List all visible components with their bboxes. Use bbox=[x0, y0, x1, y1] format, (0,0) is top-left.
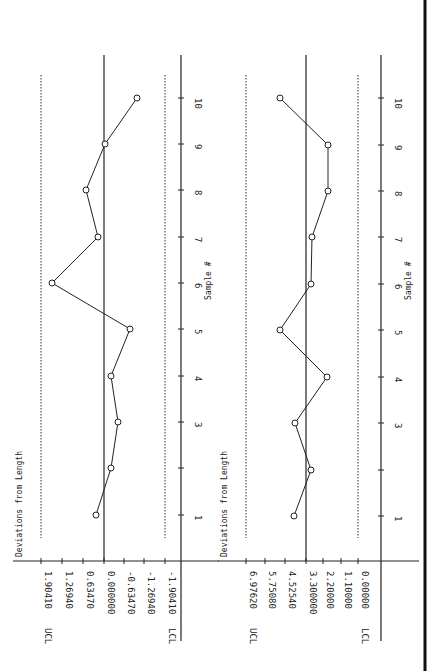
value-tick-label: 1.90410 bbox=[43, 571, 53, 609]
sample-tick-label: 7 bbox=[193, 237, 203, 242]
data-point-marker bbox=[49, 280, 55, 286]
value-tick-label: 5.75080 bbox=[267, 571, 277, 609]
data-series-line bbox=[52, 98, 137, 515]
data-point-marker bbox=[277, 95, 283, 101]
data-point-marker bbox=[325, 142, 331, 148]
lcl-label: LCL bbox=[360, 628, 370, 644]
sample-tick-label: 8 bbox=[193, 190, 203, 195]
data-point-marker bbox=[309, 234, 315, 240]
chart-title: Deviations from Length bbox=[15, 451, 24, 557]
value-tick-label: 6.97620 bbox=[248, 571, 258, 609]
value-tick-label: -1.90410 bbox=[167, 571, 177, 614]
sample-tick-label: 9 bbox=[193, 144, 203, 149]
sample-axis-label: Sample # bbox=[204, 261, 213, 300]
value-tick-label: 0.000000 bbox=[106, 571, 116, 614]
lcl-label: LCL bbox=[167, 628, 177, 644]
data-point-marker bbox=[292, 420, 298, 426]
chart-title: Deviations from Length bbox=[220, 451, 229, 557]
sample-tick-label: 8 bbox=[393, 191, 403, 196]
value-tick-label: 3.300000 bbox=[308, 571, 318, 614]
sample-axis-label: Sample # bbox=[404, 261, 413, 300]
value-tick-label: -1.26940 bbox=[146, 571, 156, 614]
ucl-label: UCL bbox=[248, 628, 258, 644]
data-point-marker bbox=[325, 188, 331, 194]
data-point-marker bbox=[95, 234, 101, 240]
data-point-marker bbox=[308, 467, 314, 473]
data-point-marker bbox=[102, 141, 108, 147]
sample-tick-label: 9 bbox=[393, 145, 403, 150]
sample-tick-label: 3 bbox=[193, 422, 203, 427]
sample-tick-label: 4 bbox=[193, 376, 203, 381]
sample-tick-label: 5 bbox=[393, 330, 403, 335]
sample-tick-label: 10 bbox=[193, 98, 203, 109]
value-tick-label: -0.63470 bbox=[126, 571, 136, 614]
sample-tick-label: 1 bbox=[393, 516, 403, 521]
data-point-marker bbox=[134, 95, 140, 101]
data-series-line bbox=[280, 98, 328, 516]
sample-tick-label: 6 bbox=[193, 283, 203, 288]
data-point-marker bbox=[83, 187, 89, 193]
data-point-marker bbox=[108, 465, 114, 471]
value-tick-label: 4.52540 bbox=[287, 571, 297, 609]
sample-tick-label: 4 bbox=[393, 377, 403, 382]
data-point-marker bbox=[115, 419, 121, 425]
data-point-marker bbox=[324, 374, 330, 380]
sample-tick-label: 3 bbox=[393, 423, 403, 428]
value-tick-label: 1.10000 bbox=[343, 571, 353, 609]
sample-tick-label: 5 bbox=[193, 329, 203, 334]
ucl-label: UCL bbox=[43, 628, 53, 644]
value-tick-label: 0.63470 bbox=[85, 571, 95, 609]
sample-tick-label: 10 bbox=[393, 98, 403, 109]
data-point-marker bbox=[291, 513, 297, 519]
data-point-marker bbox=[108, 373, 114, 379]
data-point-marker bbox=[127, 326, 133, 332]
data-point-marker bbox=[93, 512, 99, 518]
data-point-marker bbox=[308, 281, 314, 287]
sample-tick-label: 6 bbox=[393, 284, 403, 289]
value-tick-label: 2.20000 bbox=[325, 571, 335, 609]
charts-canvas: 1.904101.269400.634700.000000-0.63470-1.… bbox=[0, 0, 438, 671]
sample-tick-label: 7 bbox=[393, 237, 403, 242]
sample-tick-label: 1 bbox=[193, 515, 203, 520]
data-point-marker bbox=[277, 327, 283, 333]
value-tick-label: 0.00000 bbox=[360, 571, 370, 609]
value-tick-label: 1.26940 bbox=[64, 571, 74, 609]
